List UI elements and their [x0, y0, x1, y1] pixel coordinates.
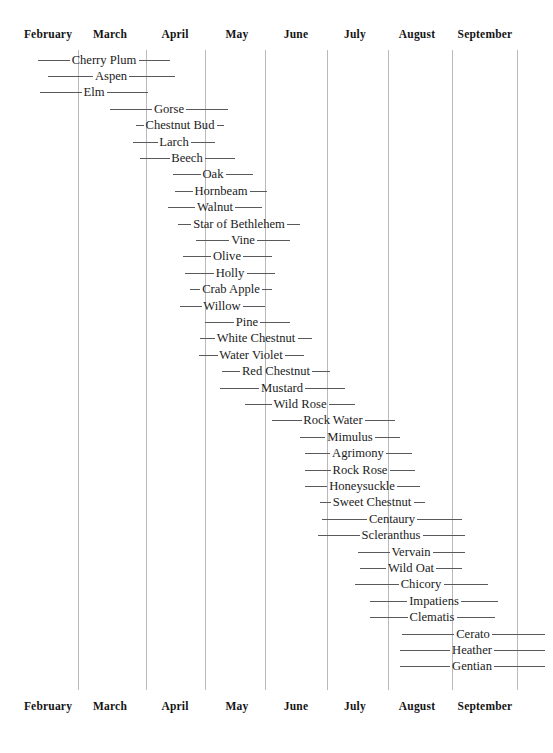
- remedy-label: Rock Water: [302, 414, 363, 427]
- flowering-span-right: [226, 174, 254, 175]
- flowering-span-right: [423, 535, 466, 536]
- flowering-span-left: [140, 158, 170, 159]
- flowering-span-right: [397, 486, 420, 487]
- timeline-row: Heather: [0, 641, 553, 658]
- remedy-label: Olive: [212, 250, 242, 263]
- flowering-span-left: [355, 584, 399, 585]
- remedy-label: Scleranthus: [361, 529, 422, 542]
- flowering-span-left: [38, 60, 70, 61]
- timeline-row: Star of Bethlehem: [0, 215, 553, 232]
- timeline-row: Elm: [0, 84, 553, 101]
- remedy-label: Larch: [158, 135, 189, 148]
- timeline-row: Larch: [0, 133, 553, 150]
- timeline-row: Crab Apple: [0, 281, 553, 298]
- flowering-span-right: [129, 76, 175, 77]
- top-axis-month-label: September: [458, 28, 513, 40]
- bottom-axis-month-label: May: [226, 700, 249, 712]
- flowering-span-left: [305, 470, 331, 471]
- flowering-span-left: [370, 601, 407, 602]
- top-axis-month-label: March: [93, 28, 127, 40]
- flowering-span-left: [320, 502, 331, 503]
- timeline-row: Mustard: [0, 379, 553, 396]
- flowering-span-right: [217, 125, 225, 126]
- flowering-span-left: [400, 650, 450, 651]
- remedy-label: Red Chestnut: [241, 365, 311, 378]
- top-axis-month-label: August: [399, 28, 435, 40]
- timeline-row: Willow: [0, 297, 553, 314]
- flowering-span-left: [200, 338, 215, 339]
- flowering-span-left: [40, 92, 82, 93]
- remedy-label: Aspen: [94, 70, 128, 83]
- remedy-label: Oak: [202, 168, 225, 181]
- flowering-span-left: [370, 617, 408, 618]
- flowering-span-right: [494, 666, 545, 667]
- flowering-span-right: [305, 388, 345, 389]
- timeline-row: White Chestnut: [0, 330, 553, 347]
- flowering-span-left: [305, 486, 327, 487]
- flowering-span-left: [245, 404, 272, 405]
- flowering-span-right: [235, 207, 262, 208]
- remedy-label: Sweet Chestnut: [332, 496, 413, 509]
- timeline-row: Vine: [0, 231, 553, 248]
- timeline-row: Gentian: [0, 658, 553, 675]
- remedy-label: Gorse: [153, 102, 185, 115]
- timeline-row: Chestnut Bud: [0, 117, 553, 134]
- flowering-span-left: [180, 306, 202, 307]
- flowering-span-right: [390, 470, 416, 471]
- timeline-row: Honeysuckle: [0, 477, 553, 494]
- timeline-row: Water Violet: [0, 346, 553, 363]
- remedy-label: Cerato: [455, 627, 491, 640]
- bottom-axis-month-label: June: [284, 700, 308, 712]
- flowering-span-right: [191, 142, 216, 143]
- timeline-row: Impatiens: [0, 592, 553, 609]
- remedy-label: Willow: [202, 299, 241, 312]
- timeline-row: Hornbeam: [0, 182, 553, 199]
- bottom-axis-month-label: April: [161, 700, 188, 712]
- flowering-span-right: [243, 306, 266, 307]
- timeline-row: Wild Oat: [0, 559, 553, 576]
- flowering-span-right: [139, 60, 171, 61]
- remedy-label: Gentian: [451, 660, 493, 673]
- top-axis-month-label: June: [284, 28, 308, 40]
- flowering-span-right: [107, 92, 149, 93]
- flowering-span-left: [322, 519, 367, 520]
- flowering-span-right: [433, 552, 466, 553]
- remedy-label: Impatiens: [408, 594, 460, 607]
- remedy-label: Cherry Plum: [71, 53, 138, 66]
- timeline-row: Chicory: [0, 576, 553, 593]
- remedy-label: Hornbeam: [193, 184, 248, 197]
- timeline-row: Aspen: [0, 67, 553, 84]
- flowering-span-right: [287, 224, 300, 225]
- top-axis-month-label: May: [226, 28, 249, 40]
- flowering-span-right: [457, 617, 496, 618]
- flowering-span-right: [444, 584, 489, 585]
- flowering-span-right: [312, 371, 330, 372]
- timeline-row: Vervain: [0, 543, 553, 560]
- timeline-row: Cherry Plum: [0, 51, 553, 68]
- timeline-row: Clematis: [0, 609, 553, 626]
- remedy-label: White Chestnut: [216, 332, 297, 345]
- flowering-span-left: [136, 125, 144, 126]
- flowering-span-right: [250, 191, 268, 192]
- top-axis-month-label: February: [24, 28, 72, 40]
- flowering-span-right: [205, 158, 236, 159]
- flowering-span-right: [247, 273, 276, 274]
- remedy-label: Wild Oat: [387, 562, 435, 575]
- remedy-label: Star of Bethlehem: [192, 217, 286, 230]
- flowering-span-left: [178, 224, 191, 225]
- timeline-row: Gorse: [0, 100, 553, 117]
- flowering-span-right: [386, 453, 412, 454]
- timeline-row: Rock Water: [0, 412, 553, 429]
- remedy-label: Heather: [451, 644, 493, 657]
- flowering-span-left: [358, 552, 390, 553]
- flowering-span-left: [183, 256, 211, 257]
- timeline-row: Sweet Chestnut: [0, 494, 553, 511]
- flowering-span-right: [260, 322, 290, 323]
- timeline-row: Red Chestnut: [0, 363, 553, 380]
- bottom-axis-month-label: March: [93, 700, 127, 712]
- flowering-span-left: [199, 355, 218, 356]
- remedy-label: Chestnut Bud: [145, 119, 216, 132]
- flowering-span-right: [186, 109, 228, 110]
- flowering-span-right: [414, 502, 426, 503]
- timeline-row: Beech: [0, 149, 553, 166]
